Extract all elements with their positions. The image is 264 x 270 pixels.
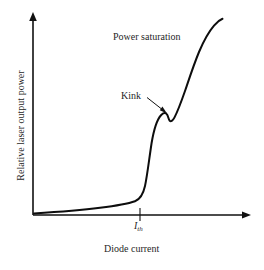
annotation-power-saturation: Power saturation (113, 31, 181, 42)
laser-diode-li-curve-figure: Power saturation Kink Ith Diode current … (0, 0, 264, 270)
y-axis-title: Relative laser output power (15, 48, 26, 204)
x-axis-arrowhead (242, 211, 251, 218)
x-axis-title: Diode current (104, 243, 159, 254)
threshold-current-label: Ith (134, 220, 143, 233)
li-characteristic-curve (34, 19, 223, 214)
annotation-kink: Kink (121, 90, 141, 101)
threshold-subscript: th (137, 225, 142, 233)
y-axis-arrowhead (29, 12, 37, 21)
